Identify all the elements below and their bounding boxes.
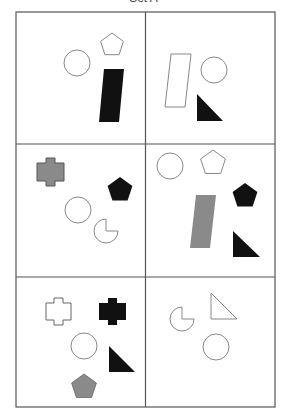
circle-icon (71, 333, 97, 359)
circle-icon (157, 153, 183, 179)
shape-puzzle-grid (0, 0, 287, 409)
parallelogram-icon (99, 69, 124, 122)
pacman-icon (170, 307, 194, 331)
cell-1[interactable] (64, 33, 124, 122)
cell-5[interactable] (46, 298, 135, 398)
cross-icon (99, 298, 126, 325)
circle-icon (201, 57, 227, 83)
circle-icon (64, 50, 90, 76)
pentagon-icon (201, 150, 226, 174)
cell-4[interactable] (157, 150, 260, 257)
circle-icon (65, 197, 91, 223)
triangle-icon (197, 94, 223, 121)
triangle-icon (109, 346, 135, 372)
cross-icon (46, 298, 71, 325)
cell-3[interactable] (37, 158, 132, 243)
cross-icon (37, 158, 64, 186)
pentagon-icon (108, 177, 133, 201)
parallelogram-icon (190, 195, 216, 248)
cell-6[interactable] (170, 293, 237, 360)
pentagon-icon (72, 374, 97, 398)
triangle-icon (211, 293, 237, 319)
pentagon-icon (233, 183, 258, 207)
circle-icon (203, 334, 229, 360)
triangle-icon (233, 231, 260, 257)
grid-lines (16, 12, 275, 407)
pentagon-icon (101, 33, 124, 55)
cell-2[interactable] (165, 54, 227, 121)
parallelogram-icon (165, 54, 191, 107)
pacman-icon (94, 219, 118, 243)
